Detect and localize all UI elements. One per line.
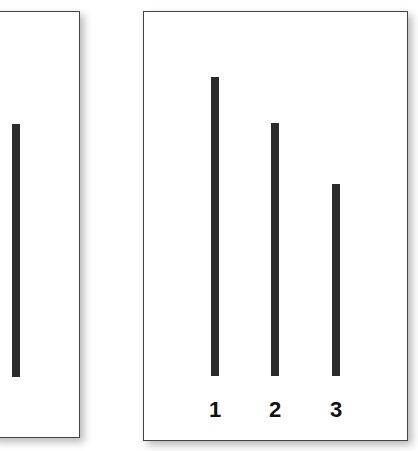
comparison-line-1 (211, 77, 219, 376)
line-label-1: 1 (200, 397, 230, 423)
line-label-2: 2 (260, 397, 290, 423)
reference-line (12, 124, 20, 377)
comparison-line-2 (271, 123, 279, 376)
reference-card (0, 11, 80, 438)
comparison-line-3 (332, 184, 340, 376)
comparison-card: 1 2 3 (143, 11, 408, 441)
line-label-3: 3 (321, 397, 351, 423)
